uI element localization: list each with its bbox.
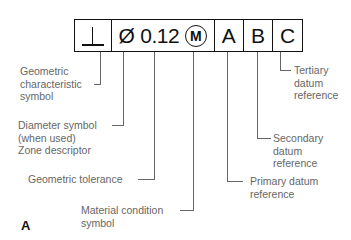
leader-primary-h <box>227 181 243 182</box>
figure-label: A <box>21 218 30 233</box>
diameter-symbol: Ø <box>119 24 135 48</box>
leader-secondary-h <box>257 138 271 139</box>
perpendicularity-icon <box>82 26 104 46</box>
tolerance-value: 0.12 <box>140 24 179 48</box>
material-condition-icon: M <box>185 25 207 47</box>
datum-tertiary-cell: C <box>272 20 302 51</box>
leader-tolerance-h <box>138 179 155 180</box>
leader-geometric-v <box>100 52 101 85</box>
label-secondary-datum: Secondary datum reference <box>273 132 323 170</box>
leader-material-v <box>193 52 194 211</box>
label-material-condition: Material condition symbol <box>81 204 163 229</box>
label-diameter: Diameter symbol (when used) Zone descrip… <box>18 119 97 157</box>
leader-primary-v <box>227 52 228 182</box>
leader-tolerance-v <box>154 52 155 180</box>
feature-control-frame: Ø 0.12 M A B C <box>74 19 303 52</box>
leader-diameter-h <box>112 125 124 126</box>
datum-secondary-cell: B <box>243 20 273 51</box>
leader-material-h <box>180 210 194 211</box>
leader-geometric-h <box>94 84 101 85</box>
leader-secondary-v <box>257 52 258 139</box>
label-primary-datum: Primary datum reference <box>250 175 318 200</box>
geometric-characteristic-cell <box>75 20 111 51</box>
leader-tertiary-v <box>280 52 281 71</box>
leader-diameter-v <box>123 52 124 126</box>
leader-tertiary-h <box>280 70 291 71</box>
tolerance-cell: Ø 0.12 M <box>111 20 214 51</box>
label-geometric-tolerance: Geometric tolerance <box>28 173 123 186</box>
label-geometric-characteristic: Geometric characteristic symbol <box>20 65 82 103</box>
label-tertiary-datum: Tertiary datum reference <box>294 64 338 102</box>
datum-primary-cell: A <box>214 20 243 51</box>
